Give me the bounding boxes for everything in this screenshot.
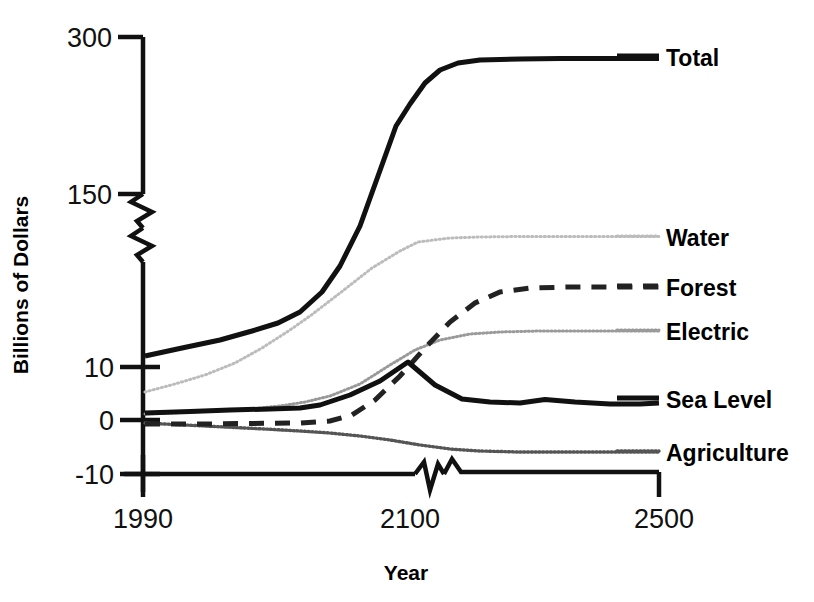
series-agriculture — [145, 423, 659, 452]
legend-item-electric[interactable]: Electric — [617, 319, 749, 345]
x-axis-title: Year — [384, 561, 428, 584]
x-axis-right-spine — [444, 459, 659, 474]
x-axis-break — [415, 462, 444, 490]
x-tick-label-2500: 2500 — [634, 504, 694, 534]
y-tick-label-neg10: -10 — [75, 460, 114, 490]
legend-label-agriculture: Agriculture — [666, 440, 789, 466]
legend-label-total: Total — [666, 45, 719, 71]
legend-label-sea-level: Sea Level — [666, 387, 772, 413]
y-axis-title: Billions of Dollars — [9, 196, 32, 375]
x-tick-label-2100: 2100 — [380, 504, 440, 534]
y-tick-label-300: 300 — [67, 23, 112, 53]
y-axis-break-upper — [131, 194, 152, 228]
legend-item-sea-level[interactable]: Sea Level — [617, 387, 772, 413]
total-line — [145, 59, 659, 357]
x-axis: 1990 2100 2500 — [113, 455, 694, 534]
y-tick-label-10: 10 — [84, 353, 114, 383]
legend-item-water[interactable]: Water — [617, 225, 729, 251]
chart-canvas: 300 150 10 0 -10 1990 2100 2500 Year Bil… — [0, 0, 814, 602]
x-tick-label-1990: 1990 — [113, 504, 173, 534]
agriculture-line — [145, 423, 659, 452]
series-total — [145, 59, 659, 357]
legend-label-electric: Electric — [666, 319, 749, 345]
y-tick-label-0: 0 — [99, 406, 114, 436]
legend-item-total[interactable]: Total — [617, 45, 719, 71]
legend-label-forest: Forest — [666, 275, 737, 301]
legend-label-water: Water — [666, 225, 729, 251]
chart-figure: 300 150 10 0 -10 1990 2100 2500 Year Bil… — [0, 0, 814, 602]
legend-item-forest[interactable]: Forest — [617, 275, 737, 301]
y-tick-label-150: 150 — [67, 180, 112, 210]
y-axis-break-lower — [131, 228, 152, 262]
